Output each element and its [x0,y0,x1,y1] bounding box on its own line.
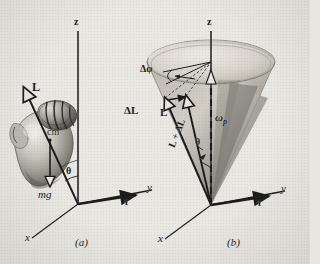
torque-label-b: τ [257,197,262,208]
omega-glyph: ω [215,111,223,123]
center-of-mass-label-a: cm [47,127,59,137]
x-axis-label-b: x [158,233,163,244]
y-axis-label-a: y [147,182,152,193]
theta-label-a: θ [66,166,71,176]
center-of-mass-dot-a [48,138,51,141]
precession-velocity-label: ωp [215,112,227,126]
omega-subscript: p [223,117,227,126]
torque-label-a: τ [124,196,129,207]
angular-momentum-label-a: L [32,81,40,93]
z-axis-label-b: z [207,17,211,27]
x-axis-label-a: x [25,232,30,243]
caption-a: (a) [75,237,88,248]
z-axis-label-a: z [74,17,78,27]
delta-L-label: ΔL [124,105,138,116]
weight-label-a: mg [38,189,51,200]
angular-momentum-label-b: L [160,107,167,118]
theta-label-b: θ [195,137,200,147]
y-axis-label-b: y [281,183,286,194]
delta-phi-label: Δφ [140,64,153,74]
caption-b: (b) [227,237,240,248]
